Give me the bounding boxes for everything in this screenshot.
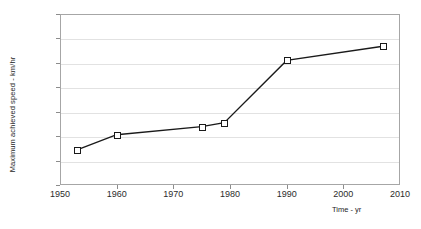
data-point-marker (284, 57, 291, 64)
data-point-marker (221, 120, 228, 127)
x-tick-label: 1960 (107, 189, 127, 199)
x-tick-mark (173, 185, 174, 189)
x-tick-label: 1950 (50, 189, 70, 199)
x-tick-label: 1970 (163, 189, 183, 199)
speed-vs-time-line-chart: Maximum achieved speed - km/hr Time - yr… (0, 0, 421, 229)
gridline (61, 64, 399, 65)
y-tick-mark (56, 14, 60, 15)
x-tick-mark (343, 185, 344, 189)
x-tick-mark (230, 185, 231, 189)
data-point-marker (74, 147, 81, 154)
gridline (61, 162, 399, 163)
y-tick-mark (56, 136, 60, 137)
x-tick-label: 2010 (390, 189, 410, 199)
y-tick-mark (56, 161, 60, 162)
plot-area (60, 14, 400, 185)
y-tick-mark (56, 185, 60, 186)
x-axis-title: Time - yr (332, 205, 361, 214)
x-tick-label: 1980 (220, 189, 240, 199)
data-point-marker (380, 43, 387, 50)
y-tick-mark (56, 112, 60, 113)
gridline (61, 137, 399, 138)
gridline (61, 39, 399, 40)
x-tick-mark (117, 185, 118, 189)
gridline (61, 113, 399, 114)
y-axis-title: Maximum achieved speed - km/hr (4, 0, 20, 229)
y-tick-mark (56, 63, 60, 64)
x-tick-mark (287, 185, 288, 189)
y-tick-mark (56, 87, 60, 88)
x-tick-label: 2000 (333, 189, 353, 199)
gridline (61, 88, 399, 89)
y-tick-mark (56, 38, 60, 39)
data-point-marker (114, 132, 121, 139)
x-tick-label: 1990 (277, 189, 297, 199)
data-point-marker (199, 124, 206, 131)
